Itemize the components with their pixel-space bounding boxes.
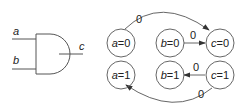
node-a0: a=0 [107,29,135,57]
svg-text:b=0: b=0 [161,37,180,49]
and-gate: a b c [12,25,85,74]
svg-text:c=0: c=0 [211,37,229,49]
node-c1: c=1 [206,61,234,89]
svg-text:b=1: b=1 [161,69,180,81]
input-label-a: a [13,25,19,37]
svg-text:c=1: c=1 [211,69,229,81]
edge-label: 0 [193,61,199,73]
node-b1: b=1 [156,61,184,89]
node-b0: b=0 [156,29,184,57]
input-label-b: b [13,54,19,66]
node-c0: c=0 [206,29,234,57]
svg-text:a=1: a=1 [112,69,131,81]
node-a1: a=1 [107,61,135,89]
edge-label: 0 [136,13,142,25]
svg-text:a=0: a=0 [112,37,131,49]
diagram-canvas: a b c 0 0 0 0 a=0 b=0 c=0 a=1 b=1 c=1 [0,0,241,107]
output-label-c: c [79,40,85,52]
edge-label: 0 [190,29,196,41]
edge-label: 0 [198,88,204,100]
